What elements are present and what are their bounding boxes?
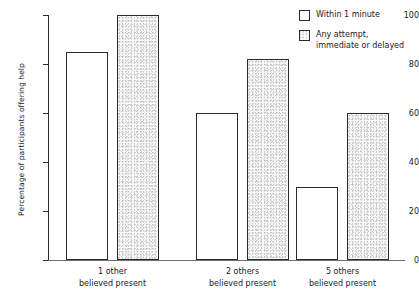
x-axis-category-label-line2: believed present <box>53 278 173 290</box>
bar <box>347 113 389 260</box>
legend-label: Any attempt,immediate or delayed <box>316 30 404 51</box>
legend-item: Within 1 minute <box>299 10 417 21</box>
x-axis-category-label-line1: 1 other <box>98 267 127 276</box>
x-axis-category-label-line2: believed present <box>283 278 403 290</box>
bar <box>66 52 108 260</box>
bar <box>247 59 289 260</box>
legend-item: Any attempt,immediate or delayed <box>299 30 417 51</box>
legend-label: Within 1 minute <box>316 10 380 21</box>
legend-swatch-icon <box>299 30 310 41</box>
x-axis-category-label-line1: 2 others <box>226 267 259 276</box>
legend-label-line2: immediate or delayed <box>316 41 404 52</box>
legend-label-line1: Within 1 minute <box>316 10 380 19</box>
x-axis-category-label: 5 othersbelieved present <box>283 266 403 289</box>
bar-chart: Percentage of participants offering help… <box>0 0 419 300</box>
x-axis-category-label-line1: 5 others <box>326 267 359 276</box>
legend: Within 1 minuteAny attempt,immediate or … <box>299 10 417 60</box>
bar <box>296 187 338 261</box>
bar <box>117 15 159 260</box>
legend-label-line1: Any attempt, <box>316 30 368 39</box>
legend-swatch-icon <box>299 10 310 21</box>
bar <box>196 113 238 260</box>
x-axis-category-label: 1 otherbelieved present <box>53 266 173 289</box>
